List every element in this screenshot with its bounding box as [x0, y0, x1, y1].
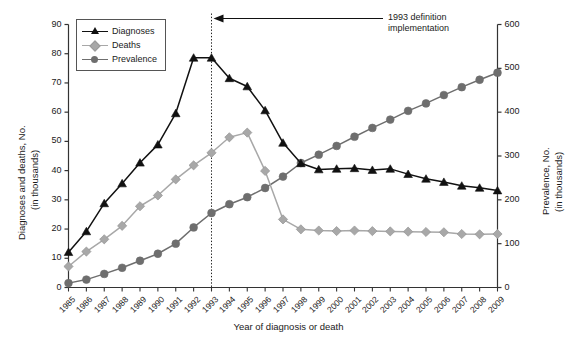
series-prevalence-marker: [100, 270, 108, 278]
y2-axis-tick-label: 600: [505, 19, 520, 29]
annotation-line-2: implementation: [388, 23, 449, 34]
series-deaths-marker: [314, 226, 323, 235]
y2-axis-tick-label: 100: [505, 238, 520, 248]
series-diagnoses-marker: [171, 109, 180, 117]
series-prevalence-marker: [154, 250, 162, 258]
chart-figure: 0102030405060708090010020030040050060019…: [0, 0, 577, 343]
series-deaths-marker: [475, 230, 484, 239]
legend-item-diagnoses[interactable]: Diagnoses: [82, 24, 157, 38]
y-axis-title-line1: Diagnoses and deaths, No.: [17, 125, 28, 240]
chart-legend: DiagnosesDeathsPrevalence: [76, 19, 166, 71]
series-deaths-marker: [439, 228, 448, 237]
series-prevalence-marker: [494, 69, 502, 77]
x-axis-title: Year of diagnosis or death: [0, 322, 577, 333]
series-prevalence-marker: [386, 116, 394, 124]
y-axis-title-line2: (in thousands): [30, 150, 41, 210]
series-prevalence-marker: [243, 193, 251, 201]
series-prevalence-marker: [261, 184, 269, 192]
series-prevalence-marker: [118, 264, 126, 272]
series-deaths-marker: [278, 215, 287, 224]
series-prevalence-marker: [82, 276, 90, 284]
series-prevalence-marker: [65, 279, 73, 287]
series-prevalence-marker: [458, 83, 466, 91]
series-diagnoses-marker: [154, 141, 163, 149]
series-deaths-marker: [457, 229, 466, 238]
y-axis-tick-label: 10: [51, 252, 61, 262]
y2-axis-tick-label: 200: [505, 194, 520, 204]
annotation-line-1: 1993 definition: [388, 12, 449, 23]
y-axis-tick-label: 20: [51, 223, 61, 233]
series-line-deaths: [69, 133, 498, 267]
series-prevalence-marker: [190, 224, 198, 232]
y-axis-tick-label: 50: [51, 135, 61, 145]
series-deaths-marker: [261, 166, 270, 175]
series-prevalence-marker: [333, 142, 341, 150]
circle-marker-icon: [82, 53, 108, 65]
series-deaths-marker: [493, 229, 502, 238]
y2-axis-tick-label: 0: [505, 282, 510, 292]
series-diagnoses-marker: [279, 139, 288, 147]
series-deaths-marker: [296, 225, 305, 234]
series-prevalence-marker: [368, 124, 376, 132]
series-deaths-marker: [368, 227, 377, 236]
series-deaths-marker: [386, 227, 395, 236]
legend-item-prevalence[interactable]: Prevalence: [82, 52, 157, 66]
y-axis-tick-label: 40: [51, 165, 61, 175]
y2-axis-tick-label: 400: [505, 106, 520, 116]
series-deaths-marker: [404, 227, 413, 236]
legend-label: Deaths: [108, 40, 141, 50]
legend-item-deaths[interactable]: Deaths: [82, 38, 157, 52]
y-axis-tick-label: 0: [56, 282, 61, 292]
series-prevalence-marker: [225, 200, 233, 208]
y-axis-tick-label: 60: [51, 106, 61, 116]
series-deaths-marker: [332, 227, 341, 236]
series-prevalence-marker: [404, 107, 412, 115]
series-diagnoses-marker: [82, 227, 91, 235]
definition-change-annotation: 1993 definitionimplementation: [388, 12, 449, 34]
series-prevalence-marker: [422, 100, 430, 108]
series-deaths-marker: [243, 128, 252, 137]
legend-label: Diagnoses: [108, 26, 155, 36]
series-prevalence-marker: [440, 91, 448, 99]
y2-axis-tick-label: 300: [505, 150, 520, 160]
annotation-arrow-head: [214, 15, 224, 23]
y2-axis-title-line2: (in thousands): [554, 152, 565, 212]
series-prevalence-marker: [351, 133, 359, 141]
series-prevalence-marker: [476, 76, 484, 84]
y2-axis-tick-label: 500: [505, 62, 520, 72]
series-prevalence-marker: [315, 151, 323, 159]
diamond-marker-icon: [82, 39, 108, 51]
series-deaths-marker: [421, 227, 430, 236]
series-prevalence-marker: [279, 173, 287, 181]
series-prevalence-marker: [136, 257, 144, 265]
legend-label: Prevalence: [108, 54, 157, 64]
triangle-marker-icon: [82, 25, 108, 37]
y-axis-tick-label: 90: [51, 19, 61, 29]
series-prevalence-marker: [208, 209, 216, 217]
series-diagnoses-marker: [243, 82, 252, 90]
y2-axis-title-line1: Prevalence, No.: [541, 147, 552, 215]
y-axis-tick-label: 30: [51, 194, 61, 204]
y-axis-tick-label: 70: [51, 77, 61, 87]
series-deaths-marker: [350, 226, 359, 235]
series-prevalence-marker: [172, 240, 180, 248]
y-axis-tick-label: 80: [51, 48, 61, 58]
